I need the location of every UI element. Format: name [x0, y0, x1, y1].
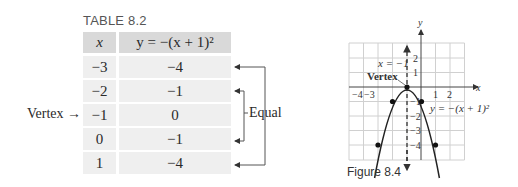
equal-brackets: [235, 67, 265, 165]
y-tick: 1: [413, 67, 418, 78]
y-tick: 2: [413, 53, 418, 64]
x-tick: 1: [433, 89, 438, 100]
x-tick: 2: [447, 89, 452, 100]
y-axis-label: y: [417, 17, 423, 28]
y-tick: −4: [410, 140, 421, 151]
y-tick: −3: [410, 125, 421, 136]
curve-label: y = −(x + 1)²: [429, 102, 490, 115]
graph-vertex-label: Vertex: [367, 70, 398, 82]
brackets-and-graph: x y −4 −3 1 2 2 1 −1 −2 −3 −4 x = −1 Ver…: [0, 0, 518, 187]
x-tick: −4: [352, 89, 363, 100]
y-tick: −2: [410, 111, 421, 122]
x-axis-label: x: [475, 82, 481, 93]
x-tick: −3: [364, 89, 375, 100]
y-tick: −1: [410, 96, 421, 107]
figure-caption: Figure 8.4: [347, 165, 401, 179]
symmetry-line-label: x = −1: [377, 57, 409, 69]
